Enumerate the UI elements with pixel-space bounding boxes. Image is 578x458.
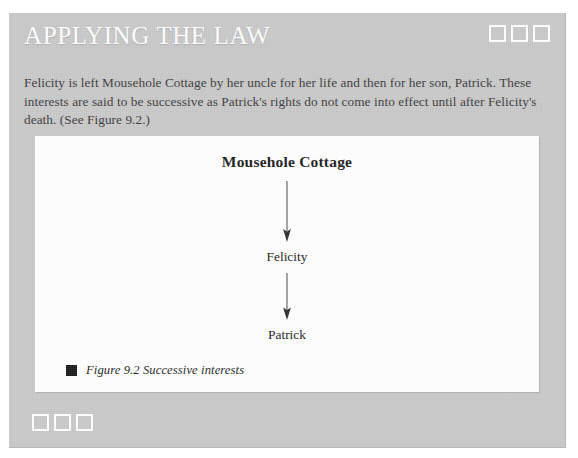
diagram-node-root: Mousehole Cottage — [35, 153, 539, 171]
square-icon — [76, 414, 93, 431]
page-title: APPLYING THE LAW — [24, 21, 270, 51]
intro-paragraph: Felicity is left Mousehole Cottage by he… — [24, 74, 552, 130]
decorative-squares-top-right — [489, 25, 550, 42]
page-root: APPLYING THE LAW Felicity is left Mouseh… — [0, 0, 578, 458]
diagram-node-felicity: Felicity — [35, 249, 539, 265]
applying-the-law-panel: APPLYING THE LAW Felicity is left Mouseh… — [9, 13, 566, 448]
diagram-node-patrick: Patrick — [35, 327, 539, 343]
square-icon — [533, 25, 550, 42]
down-arrow-icon — [281, 273, 294, 321]
filled-square-icon — [66, 365, 77, 376]
diagram: Mousehole Cottage Felicity Patrick — [35, 136, 539, 392]
panel-header: APPLYING THE LAW — [9, 21, 566, 55]
decorative-squares-bottom-left — [32, 414, 93, 431]
square-icon — [489, 25, 506, 42]
square-icon — [54, 414, 71, 431]
square-icon — [32, 414, 49, 431]
square-icon — [511, 25, 528, 42]
figure-caption: Figure 9.2 Successive interests — [66, 363, 244, 378]
figure-caption-text: Figure 9.2 Successive interests — [86, 363, 244, 378]
figure-container: Mousehole Cottage Felicity Patrick — [35, 136, 539, 392]
down-arrow-icon — [281, 181, 294, 243]
